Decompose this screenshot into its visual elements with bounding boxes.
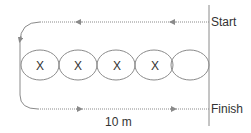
distance-label: 10 m	[105, 116, 132, 128]
cone-1: X	[36, 60, 44, 72]
finish-label: Finish	[211, 103, 243, 115]
cone-3: X	[113, 60, 121, 72]
cone-4: X	[151, 60, 159, 72]
cone-2: X	[74, 60, 82, 72]
start-label: Start	[211, 16, 236, 28]
